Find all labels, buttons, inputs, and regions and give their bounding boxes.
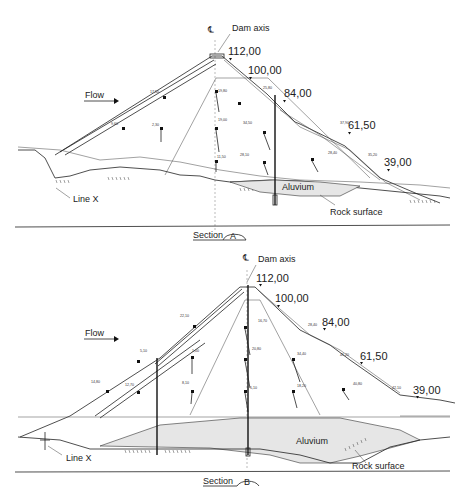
svg-text:11,50: 11,50 (217, 155, 226, 159)
centerline-symbol: ℄ (207, 25, 214, 35)
aluvium-label: Aluvium (282, 182, 314, 192)
svg-text:22,10: 22,10 (180, 314, 189, 318)
elevation-100-b: 100,00 (275, 292, 309, 304)
flow-arrow-head-icon-b (114, 336, 119, 342)
centerline-symbol-b: ℄ (242, 253, 249, 263)
elevation-61-5: 61,50 (348, 119, 376, 131)
svg-text:34,40: 34,40 (297, 352, 306, 356)
upstream-face-b-4 (100, 343, 205, 418)
line-x-label: Line X (73, 194, 99, 204)
elevation-84-b: 84,00 (322, 316, 350, 328)
svg-text:1,00: 1,00 (192, 349, 199, 353)
svg-text:28,40: 28,40 (308, 323, 317, 327)
elevation-112: 112,00 (228, 45, 261, 57)
elevation-84: 84,00 (284, 87, 312, 99)
svg-text:34,50: 34,50 (243, 121, 252, 125)
svg-text:18,20: 18,20 (297, 384, 306, 388)
section-a-baseline (15, 225, 450, 227)
svg-text:25,80: 25,80 (263, 86, 272, 90)
svg-text:9,60: 9,60 (111, 122, 118, 126)
rock-surface-leader (320, 195, 335, 205)
upstream-face-inner-2 (65, 64, 216, 155)
svg-text:2,30: 2,30 (152, 123, 159, 127)
elevation-112-b: 112,00 (256, 272, 289, 284)
svg-text:17,50: 17,50 (150, 90, 159, 94)
section-b-title: Section (203, 476, 233, 486)
svg-text:28,10: 28,10 (240, 153, 249, 157)
dam-cross-sections-diagram: ℄ Dam axis (0, 0, 467, 504)
svg-text:40,80: 40,80 (353, 382, 362, 386)
section-b-letter: B (244, 477, 250, 487)
flow-arrow-head-icon (114, 98, 119, 104)
svg-text:5,10: 5,10 (140, 349, 147, 353)
svg-text:5,10: 5,10 (250, 386, 257, 390)
line-x-leader (56, 188, 70, 198)
svg-text:19,80: 19,80 (218, 89, 227, 93)
svg-text:14,80: 14,80 (91, 380, 100, 384)
section-b: ℄ Dam axis (15, 253, 455, 487)
dam-axis-leader-b (247, 265, 256, 282)
elevation-39-b: 39,00 (413, 384, 441, 396)
svg-text:41,20: 41,20 (340, 353, 349, 357)
instruments-b (106, 325, 349, 412)
flow-label-b: Flow (85, 328, 105, 338)
section-a-title: Section (193, 230, 223, 240)
rock-surface-label: Rock surface (330, 207, 383, 217)
rock-surface-label-b: Rock surface (352, 461, 405, 471)
dam-axis-label-b: Dam axis (258, 254, 296, 264)
flow-label: Flow (85, 90, 105, 100)
elevation-61-5-b: 61,50 (360, 350, 388, 362)
line-x-label-b: Line X (66, 453, 92, 463)
upstream-face-inner (60, 60, 214, 152)
svg-text:20,80: 20,80 (252, 347, 261, 351)
upstream-face-b-3 (95, 340, 200, 416)
elevation-100: 100,00 (248, 64, 282, 76)
dimension-labels-b: 22,10 5,10 14,80 12,70 1,00 8,10 16,70 2… (91, 314, 401, 390)
svg-text:16,70: 16,70 (258, 319, 267, 323)
svg-text:8,10: 8,10 (182, 381, 189, 385)
aluvium-label-b: Aluvium (296, 436, 328, 446)
line-x-leader-b (48, 446, 62, 455)
section-b-baseline (15, 471, 450, 472)
svg-text:42,10: 42,10 (392, 386, 401, 390)
dam-axis-label: Dam axis (232, 23, 270, 33)
svg-text:28,40: 28,40 (328, 151, 337, 155)
elevation-39: 39,00 (384, 156, 412, 168)
section-a: ℄ Dam axis (15, 23, 450, 241)
svg-text:35,20: 35,20 (368, 153, 377, 157)
core-outline (165, 78, 370, 178)
section-a-letter: A (230, 231, 236, 241)
svg-text:12,70: 12,70 (125, 383, 134, 387)
embankment-outer-b (20, 287, 455, 437)
downstream-filter (224, 60, 420, 200)
svg-text:19,00: 19,00 (218, 118, 227, 122)
